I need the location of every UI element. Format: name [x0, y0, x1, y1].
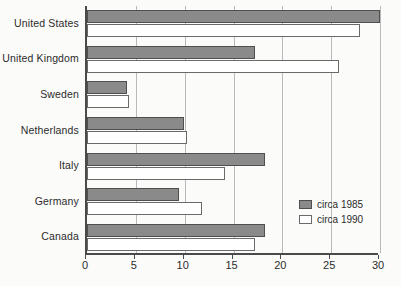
chart-legend: circa 1985circa 1990	[299, 198, 375, 228]
x-axis-tick-label: 20	[274, 259, 286, 271]
legend-swatch-icon	[299, 215, 312, 224]
legend-item: circa 1985	[299, 198, 375, 211]
x-axis-tick-label: 30	[372, 259, 384, 271]
bar	[87, 153, 265, 166]
bar	[87, 238, 255, 251]
category-label: Germany	[35, 195, 79, 207]
bar-group	[87, 113, 378, 149]
bar	[87, 81, 127, 94]
category-label: Canada	[41, 230, 79, 242]
category-label: Italy	[59, 159, 79, 171]
bar-group	[87, 42, 378, 78]
bar-group	[87, 77, 378, 113]
x-axis-tick-label: 10	[177, 259, 189, 271]
x-axis-tick-label: 0	[82, 259, 88, 271]
category-axis-labels: United StatesUnited KingdomSwedenNetherl…	[0, 6, 79, 255]
gridline	[380, 6, 381, 253]
bar	[87, 95, 129, 108]
bar	[87, 202, 202, 215]
x-axis: 051015202530	[85, 255, 378, 279]
category-label: Sweden	[40, 88, 79, 100]
bar	[87, 224, 265, 237]
legend-label: circa 1985	[317, 199, 363, 210]
bar-group	[87, 148, 378, 184]
x-axis-tick-label: 25	[323, 259, 335, 271]
bar	[87, 117, 184, 130]
chart-figure: United StatesUnited KingdomSwedenNetherl…	[0, 0, 401, 286]
bar	[87, 10, 380, 23]
category-label: United States	[14, 17, 79, 29]
category-label: Netherlands	[21, 124, 79, 136]
bar-group	[87, 6, 378, 42]
bar	[87, 167, 225, 180]
legend-swatch-icon	[299, 200, 312, 209]
bar	[87, 24, 360, 37]
bar	[87, 131, 187, 144]
x-axis-tick-label: 15	[225, 259, 237, 271]
bar	[87, 46, 255, 59]
legend-item: circa 1990	[299, 213, 375, 226]
bar	[87, 60, 339, 73]
legend-label: circa 1990	[317, 214, 363, 225]
category-label: United Kingdom	[2, 52, 79, 64]
x-axis-tick-label: 5	[131, 259, 137, 271]
bar	[87, 188, 179, 201]
